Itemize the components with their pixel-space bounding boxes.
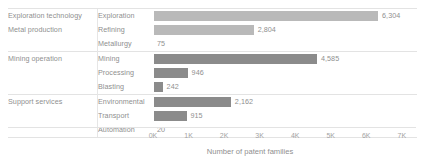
bar-cell: 2,162 bbox=[154, 95, 417, 110]
bar-cell: 946 bbox=[154, 66, 417, 80]
bar-value-label: 4,585 bbox=[321, 52, 339, 66]
bar-track: 915 bbox=[154, 109, 417, 123]
bar-value-label: 2,162 bbox=[235, 95, 253, 109]
bar-cell: 75 bbox=[154, 37, 417, 52]
bar-cell: 2,804 bbox=[154, 23, 417, 37]
bar bbox=[154, 111, 187, 121]
category-label: Exploration bbox=[98, 9, 155, 24]
bar-cell: 6,304 bbox=[154, 9, 417, 24]
group-label bbox=[8, 80, 98, 95]
table-row: Processing946 bbox=[8, 66, 417, 80]
bar bbox=[154, 54, 317, 64]
group-label: Mining operation bbox=[8, 52, 98, 67]
bar-value-label: 75 bbox=[157, 37, 165, 51]
axis-tick: 2K bbox=[220, 132, 229, 139]
axis-tick: 3K bbox=[255, 132, 264, 139]
bar-value-label: 242 bbox=[167, 80, 179, 94]
category-label: Transport bbox=[98, 109, 155, 123]
axis-tick: 4K bbox=[291, 132, 300, 139]
bar bbox=[154, 82, 163, 92]
category-label: Processing bbox=[98, 66, 155, 80]
category-label: Refining bbox=[98, 23, 155, 37]
category-label: Environmental bbox=[98, 95, 155, 110]
bar bbox=[154, 11, 378, 21]
axis-title-label: Number of patent families bbox=[207, 147, 294, 156]
axis-title: Number of patent families bbox=[8, 147, 416, 156]
axis-tick: 6K bbox=[362, 132, 371, 139]
bar-track: 75 bbox=[154, 37, 417, 51]
bar-track: 6,304 bbox=[154, 9, 417, 23]
bar-value-label: 915 bbox=[191, 109, 203, 123]
bar bbox=[154, 25, 254, 35]
bar bbox=[154, 68, 188, 78]
axis-line bbox=[8, 127, 416, 128]
group-label bbox=[8, 37, 98, 52]
category-label: Blasting bbox=[98, 80, 155, 95]
group-label: Metal production bbox=[8, 23, 98, 37]
axis-tick: 5K bbox=[326, 132, 335, 139]
bar-value-label: 946 bbox=[192, 66, 204, 80]
axis-tick: 0K bbox=[149, 132, 158, 139]
category-label: Metallurgy bbox=[98, 37, 155, 52]
bar-track: 2,804 bbox=[154, 23, 417, 37]
axis-tick: 7K bbox=[398, 132, 407, 139]
bar-track: 242 bbox=[154, 80, 417, 94]
table-row: Transport915 bbox=[8, 109, 417, 123]
bar-chart: Exploration technologyExploration6,304Me… bbox=[0, 0, 424, 163]
table-row: Support servicesEnvironmental2,162 bbox=[8, 95, 417, 110]
table-row: Exploration technologyExploration6,304 bbox=[8, 9, 417, 24]
table-row: Mining operationMining4,585 bbox=[8, 52, 417, 67]
group-label bbox=[8, 66, 98, 80]
category-label: Mining bbox=[98, 52, 155, 67]
bar-cell: 915 bbox=[154, 109, 417, 123]
table-body: Exploration technologyExploration6,304Me… bbox=[8, 9, 417, 138]
bar-track: 4,585 bbox=[154, 52, 417, 66]
bar-cell: 4,585 bbox=[154, 52, 417, 67]
group-label: Exploration technology bbox=[8, 9, 98, 24]
table-row: Metal productionRefining2,804 bbox=[8, 23, 417, 37]
bar-value-label: 6,304 bbox=[382, 9, 400, 23]
bar-cell: 242 bbox=[154, 80, 417, 95]
bar bbox=[154, 97, 231, 107]
group-label: Support services bbox=[8, 95, 98, 110]
chart-table: Exploration technologyExploration6,304Me… bbox=[8, 8, 417, 138]
bar-value-label: 2,804 bbox=[258, 23, 276, 37]
x-axis: 0K1K2K3K4K5K6K7K Number of patent famili… bbox=[8, 127, 416, 163]
table-row: Blasting242 bbox=[8, 80, 417, 95]
table-row: Metallurgy75 bbox=[8, 37, 417, 52]
bar-track: 2,162 bbox=[154, 95, 417, 109]
group-label bbox=[8, 109, 98, 123]
axis-tick: 1K bbox=[184, 132, 193, 139]
bar-track: 946 bbox=[154, 66, 417, 80]
